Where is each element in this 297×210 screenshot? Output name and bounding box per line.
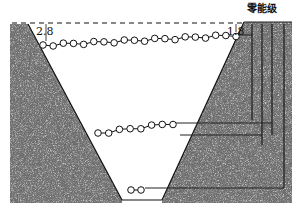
chain-bead: [170, 121, 177, 128]
chain-bead: [80, 41, 87, 48]
chain-bead: [127, 125, 134, 132]
chain-bead: [192, 34, 199, 41]
chain-bead: [105, 130, 112, 137]
middle-level-chain: [95, 121, 177, 136]
chain-bead: [172, 36, 179, 43]
chain-bead: [90, 38, 97, 45]
chain-bead: [95, 130, 102, 137]
left-wall: [10, 24, 122, 203]
chain-bead: [162, 35, 169, 42]
right-value-label: 1.8: [227, 26, 245, 37]
chain-bead: [50, 43, 57, 50]
chain-bead: [202, 35, 209, 42]
chain-bead: [182, 34, 189, 41]
bottom-level-chain: [128, 187, 145, 194]
chain-bead: [138, 187, 145, 194]
chain-bead: [70, 40, 77, 47]
chain-bead: [151, 35, 158, 42]
chain-bead: [212, 32, 219, 39]
chain-bead: [116, 126, 123, 133]
chain-bead: [138, 125, 145, 132]
chain-bead: [121, 37, 128, 44]
chain-bead: [159, 121, 166, 128]
potential-well-diagram: 2.8 1.8 零能级: [0, 0, 297, 210]
top-level-chain: [40, 32, 240, 49]
left-value-label: 2.8: [36, 26, 54, 37]
chain-bead: [60, 40, 67, 47]
chain-bead: [101, 39, 108, 46]
right-wall: [145, 22, 292, 203]
chain-bead: [131, 37, 138, 44]
chain-bead: [148, 122, 155, 129]
well-bottom: [120, 200, 164, 210]
zero-level-label: 零能级: [247, 4, 277, 14]
chain-bead: [40, 42, 47, 49]
chain-bead: [128, 187, 135, 194]
chain-bead: [111, 40, 118, 47]
chain-bead: [141, 38, 148, 45]
